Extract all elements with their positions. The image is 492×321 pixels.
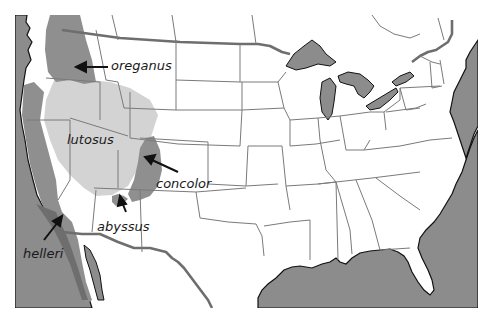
label-helleri: helleri — [23, 247, 63, 260]
label-lutosus: lutosus — [67, 133, 114, 146]
range-map: oreganus lutosus concolor abyssus heller… — [15, 15, 478, 308]
map-canvas — [15, 15, 478, 308]
label-oreganus: oreganus — [111, 59, 172, 72]
label-concolor: concolor — [156, 177, 211, 190]
label-abyssus: abyssus — [97, 220, 149, 233]
